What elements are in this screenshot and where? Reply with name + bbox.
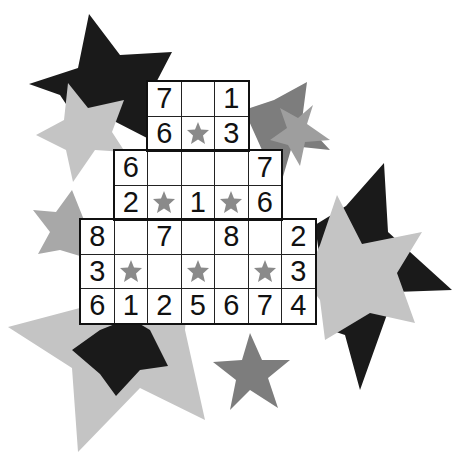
- star-cell[interactable]: [181, 116, 216, 152]
- cell-value: 7: [257, 153, 273, 182]
- star-cell[interactable]: [214, 185, 249, 221]
- given-cell: 2: [147, 288, 182, 324]
- given-cell: 8: [80, 219, 115, 255]
- given-cell: 7: [248, 150, 283, 186]
- cell-value: 8: [223, 222, 239, 251]
- cell-value: 7: [257, 291, 273, 320]
- empty-cell[interactable]: [214, 150, 249, 186]
- cell-value: 7: [156, 222, 172, 251]
- star-cell[interactable]: [248, 254, 283, 290]
- star-icon: [152, 190, 176, 214]
- empty-cell[interactable]: [147, 150, 182, 186]
- given-cell: 6: [147, 116, 182, 152]
- star-icon: [186, 121, 210, 145]
- cell-value: 2: [156, 291, 172, 320]
- given-cell: 7: [147, 219, 182, 255]
- empty-cell[interactable]: [181, 219, 216, 255]
- star-cell[interactable]: [114, 254, 149, 290]
- cell-value: 3: [290, 257, 306, 286]
- given-cell: 6: [80, 288, 115, 324]
- empty-cell[interactable]: [181, 150, 216, 186]
- cell-value: 1: [123, 291, 139, 320]
- empty-cell[interactable]: [248, 219, 283, 255]
- star-icon: [186, 259, 210, 283]
- cell-value: 2: [123, 188, 139, 217]
- cell-value: 1: [223, 84, 239, 113]
- given-cell: 6: [248, 185, 283, 221]
- given-cell: 3: [281, 254, 316, 290]
- star-icon: [253, 259, 277, 283]
- cell-value: 6: [89, 291, 105, 320]
- given-cell: 2: [281, 219, 316, 255]
- empty-cell[interactable]: [147, 254, 182, 290]
- cell-value: 6: [223, 291, 239, 320]
- cell-value: 3: [223, 119, 239, 148]
- given-cell: 1: [181, 185, 216, 221]
- given-cell: 4: [281, 288, 316, 324]
- star-cell[interactable]: [147, 185, 182, 221]
- empty-cell[interactable]: [181, 81, 216, 117]
- cell-value: 3: [89, 257, 105, 286]
- given-cell: 1: [114, 288, 149, 324]
- dark-grey-star-bottom-center-icon: [213, 333, 290, 410]
- empty-cell[interactable]: [214, 254, 249, 290]
- cell-value: 6: [156, 119, 172, 148]
- empty-cell[interactable]: [114, 219, 149, 255]
- given-cell: 7: [147, 81, 182, 117]
- given-cell: 2: [114, 185, 149, 221]
- star-cell[interactable]: [181, 254, 216, 290]
- cell-value: 2: [290, 222, 306, 251]
- cell-value: 5: [190, 291, 206, 320]
- cell-value: 4: [290, 291, 306, 320]
- cell-value: 1: [190, 188, 206, 217]
- given-cell: 1: [214, 81, 249, 117]
- given-cell: 8: [214, 219, 249, 255]
- given-cell: 6: [214, 288, 249, 324]
- given-cell: 3: [80, 254, 115, 290]
- cell-value: 6: [123, 153, 139, 182]
- given-cell: 7: [248, 288, 283, 324]
- cell-value: 8: [89, 222, 105, 251]
- given-cell: 3: [214, 116, 249, 152]
- star-icon: [219, 190, 243, 214]
- grey-star-left-mid-icon: [33, 190, 84, 256]
- given-cell: 6: [114, 150, 149, 186]
- cell-value: 6: [257, 188, 273, 217]
- given-cell: 5: [181, 288, 216, 324]
- star-icon: [119, 259, 143, 283]
- cell-value: 7: [156, 84, 172, 113]
